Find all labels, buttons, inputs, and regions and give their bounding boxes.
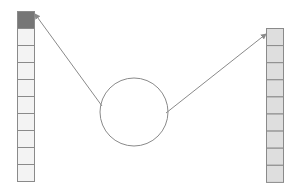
right-column-cell <box>267 80 284 97</box>
right-column-cell <box>267 148 284 165</box>
left-column-cell <box>18 29 35 46</box>
left-column-cell <box>18 165 35 182</box>
right-cell-column <box>267 29 284 183</box>
arrow-line <box>166 34 266 113</box>
left-cell-column <box>18 12 35 182</box>
left-column-cell <box>18 80 35 97</box>
left-column-cell <box>18 131 35 148</box>
right-column-cell <box>267 46 284 63</box>
right-column-cell <box>267 131 284 148</box>
right-column-cell <box>267 29 284 46</box>
left-column-cell <box>18 148 35 165</box>
left-column-cell <box>18 12 35 29</box>
diagram-canvas <box>0 0 299 193</box>
right-column-cell <box>267 97 284 114</box>
left-column-cell <box>18 97 35 114</box>
left-column-cell <box>18 46 35 63</box>
left-column-cell <box>18 114 35 131</box>
right-column-cell <box>267 63 284 80</box>
right-column-cell <box>267 114 284 131</box>
left-column-cell <box>18 63 35 80</box>
arrow-line <box>35 14 102 106</box>
center-circle <box>100 78 168 146</box>
right-column-cell <box>267 165 284 182</box>
